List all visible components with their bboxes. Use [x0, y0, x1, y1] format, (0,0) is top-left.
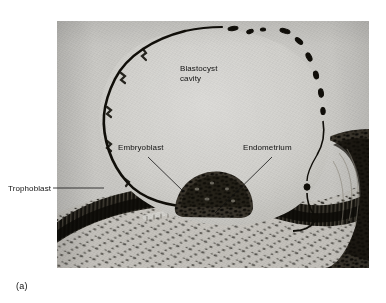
label-trophoblast: Trophoblast [8, 184, 51, 194]
label-blastocyst-cavity: Blastocyst cavity [180, 64, 217, 84]
figure-root: Blastocyst cavity Embryoblast Endometriu… [0, 0, 386, 303]
micrograph-image [57, 21, 369, 268]
micrograph-svg [57, 21, 369, 268]
figure-caption-a: (a) [16, 281, 28, 291]
label-embryoblast: Embryoblast [118, 143, 164, 153]
label-endometrium: Endometrium [243, 143, 292, 153]
